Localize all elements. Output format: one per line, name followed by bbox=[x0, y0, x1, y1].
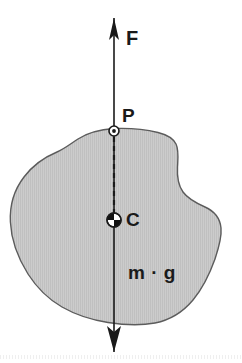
bottom-edge-artifact bbox=[0, 355, 242, 359]
centre-of-mass-label: C bbox=[126, 210, 140, 229]
force-label: F bbox=[126, 28, 138, 48]
physics-diagram-figure: F P C m · g bbox=[0, 0, 242, 363]
point-p-marker bbox=[109, 126, 119, 136]
diagram-canvas bbox=[0, 0, 242, 363]
weight-label: m · g bbox=[128, 263, 176, 282]
point-p-label: P bbox=[122, 106, 135, 125]
centre-of-mass-marker bbox=[107, 213, 121, 227]
